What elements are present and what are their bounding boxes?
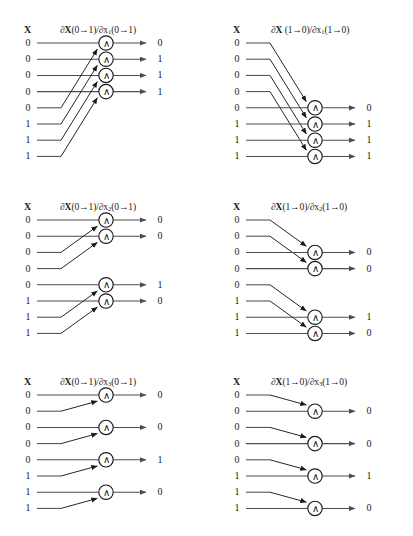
svg-text:∧: ∧ (103, 280, 110, 290)
and-gate: ∧ (308, 133, 322, 147)
svg-text:∧: ∧ (312, 407, 319, 417)
and-gate: ∧ (308, 469, 322, 483)
svg-text:∧: ∧ (103, 55, 110, 65)
svg-text:∧: ∧ (103, 232, 110, 242)
derivative-gate-figure: ∂X(0→1)/∂x1(0→1)X000001110111∧∧∧∧∂X (1→0… (0, 0, 413, 536)
and-gate: ∧ (99, 388, 113, 402)
wiring-p1: ∧∧∧∧ (0, 11, 207, 189)
svg-text:∧: ∧ (103, 391, 110, 401)
and-gate: ∧ (308, 101, 322, 115)
svg-text:∧: ∧ (103, 455, 110, 465)
svg-text:∧: ∧ (312, 136, 319, 146)
svg-text:∧: ∧ (312, 103, 319, 113)
and-gate: ∧ (99, 294, 113, 308)
and-gate: ∧ (99, 420, 113, 434)
and-gate: ∧ (99, 229, 113, 243)
and-gate: ∧ (99, 52, 113, 66)
and-gate: ∧ (308, 310, 322, 324)
svg-text:∧: ∧ (312, 439, 319, 449)
panel-p4: ∂X(1→0)/∂x2(1→0)X000001110010∧∧∧∧ (209, 188, 413, 366)
svg-text:∧: ∧ (312, 264, 319, 274)
wiring-p3: ∧∧∧∧ (0, 188, 207, 366)
and-gate: ∧ (99, 68, 113, 82)
and-gate: ∧ (308, 326, 322, 340)
svg-text:∧: ∧ (312, 120, 319, 130)
and-gate: ∧ (99, 485, 113, 499)
wiring-p4: ∧∧∧∧ (209, 188, 413, 366)
svg-text:∧: ∧ (312, 329, 319, 339)
svg-text:∧: ∧ (312, 504, 319, 514)
and-gate: ∧ (99, 453, 113, 467)
svg-text:∧: ∧ (312, 313, 319, 323)
wiring-p2: ∧∧∧∧ (209, 11, 413, 189)
panel-p6: ∂X(1→0)/∂x3(1→0)X000001110010∧∧∧∧ (209, 363, 413, 536)
svg-text:∧: ∧ (312, 472, 319, 482)
and-gate: ∧ (99, 36, 113, 50)
wiring-p6: ∧∧∧∧ (209, 363, 413, 536)
svg-text:∧: ∧ (103, 39, 110, 49)
svg-text:∧: ∧ (103, 71, 110, 81)
and-gate: ∧ (99, 278, 113, 292)
and-gate: ∧ (308, 261, 322, 275)
and-gate: ∧ (308, 245, 322, 259)
and-gate: ∧ (308, 436, 322, 450)
svg-text:∧: ∧ (312, 152, 319, 162)
and-gate: ∧ (308, 404, 322, 418)
svg-text:∧: ∧ (312, 248, 319, 258)
svg-text:∧: ∧ (103, 297, 110, 307)
and-gate: ∧ (308, 149, 322, 163)
panel-p2: ∂X (1→0)/∂x1(1→0)X000001110111∧∧∧∧ (209, 11, 413, 189)
svg-text:∧: ∧ (103, 216, 110, 226)
and-gate: ∧ (308, 501, 322, 515)
panel-p3: ∂X(0→1)/∂x2(0→1)X000001110010∧∧∧∧ (0, 188, 207, 366)
and-gate: ∧ (99, 213, 113, 227)
and-gate: ∧ (308, 117, 322, 131)
panel-p5: ∂X(0→1)/∂x3(0→1)X000001110010∧∧∧∧ (0, 363, 207, 536)
svg-text:∧: ∧ (103, 87, 110, 97)
and-gate: ∧ (99, 84, 113, 98)
svg-text:∧: ∧ (103, 488, 110, 498)
panel-p1: ∂X(0→1)/∂x1(0→1)X000001110111∧∧∧∧ (0, 11, 207, 189)
wiring-p5: ∧∧∧∧ (0, 363, 207, 536)
svg-text:∧: ∧ (103, 423, 110, 433)
